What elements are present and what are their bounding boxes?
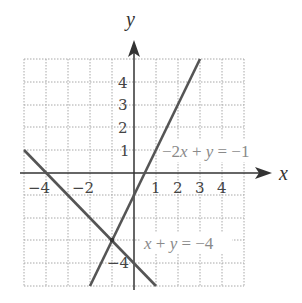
x-tick-neg2: −2: [72, 179, 94, 197]
y-axis-label: y: [124, 8, 135, 31]
x-tick-4: 4: [217, 179, 227, 197]
intersection-point: [110, 238, 114, 242]
y-tick-2: 2: [118, 119, 128, 137]
y-tick-3: 3: [118, 96, 128, 114]
y-tick-4: 4: [118, 74, 128, 92]
y-tick-neg4: −4: [107, 254, 129, 272]
x-tick-1: 1: [151, 179, 161, 197]
eq2-label: x + y = −4: [143, 234, 214, 253]
eq1-label: −2x + y = −1: [162, 142, 249, 161]
x-tick-2: 2: [173, 179, 183, 197]
x-tick-neg4: −4: [28, 179, 50, 197]
coordinate-graph: x y −4 −2 1 2 3 4 4 3 2 1 −4 −2x + y = −…: [0, 0, 302, 303]
y-tick-1: 1: [120, 142, 130, 160]
x-tick-3: 3: [195, 179, 205, 197]
x-axis-label: x: [278, 162, 288, 184]
